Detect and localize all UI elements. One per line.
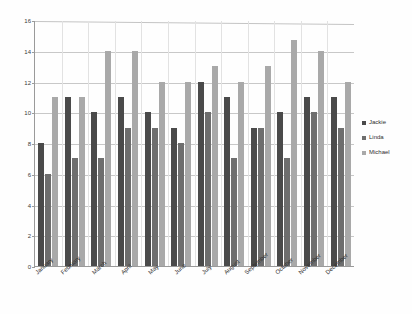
bar-linda-may <box>152 128 158 266</box>
bar-group-may <box>141 21 168 266</box>
x-axis-label-cell: July <box>194 268 221 314</box>
bar-linda-september <box>258 128 264 266</box>
legend-label-jackie: Jackie <box>369 119 386 126</box>
bar-group-july <box>194 21 221 266</box>
bar-group-november <box>301 21 328 266</box>
y-axis-tick-label: 16 <box>24 18 31 24</box>
bar-linda-october <box>284 158 290 266</box>
x-axis-label-cell: December <box>327 268 354 314</box>
y-axis-tick-label: 2 <box>28 233 31 239</box>
bar-linda-july <box>205 112 211 266</box>
bar-linda-december <box>338 128 344 266</box>
x-axis-label-cell: October <box>274 268 301 314</box>
x-axis-label-cell: September <box>247 268 274 314</box>
y-axis-tick-label: 14 <box>24 49 31 55</box>
bar-linda-april <box>125 128 131 266</box>
plot-area: 0246810121416 <box>34 21 354 267</box>
bar-jackie-april <box>118 97 124 266</box>
bar-jackie-september <box>251 128 257 266</box>
bar-michael-september <box>265 66 271 266</box>
bar-michael-october <box>291 40 297 266</box>
legend-swatch-michael-icon <box>362 151 366 155</box>
legend-item-jackie[interactable]: Jackie <box>362 119 410 126</box>
bar-michael-january <box>52 97 58 266</box>
bar-michael-august <box>238 82 244 267</box>
bar-jackie-october <box>277 112 283 266</box>
bar-chart: 0246810121416 JanuaryFebruaryMarchAprilM… <box>0 0 412 314</box>
x-axis-label-cell: August <box>221 268 248 314</box>
legend-item-linda[interactable]: Linda <box>362 134 410 141</box>
bar-jackie-july <box>198 82 204 267</box>
y-axis-tick-label: 10 <box>24 110 31 116</box>
x-axis-label-cell: June <box>167 268 194 314</box>
legend-label-linda: Linda <box>369 134 384 141</box>
bar-group-march <box>88 21 115 266</box>
bar-jackie-december <box>331 97 337 266</box>
x-axis-label-cell: May <box>141 268 168 314</box>
y-axis-tick-label: 0 <box>28 264 31 270</box>
bar-michael-july <box>212 66 218 266</box>
bar-jackie-august <box>224 97 230 266</box>
bars-layer <box>35 21 354 266</box>
bar-jackie-march <box>91 112 97 266</box>
bar-group-june <box>168 21 195 266</box>
legend-label-michael: Michael <box>369 149 390 156</box>
bar-linda-august <box>231 158 237 266</box>
chart-legend: JackieLindaMichael <box>362 119 410 164</box>
bar-group-february <box>62 21 89 266</box>
bar-jackie-november <box>304 97 310 266</box>
bar-group-october <box>274 21 301 266</box>
bar-linda-february <box>72 158 78 266</box>
bar-group-august <box>221 21 248 266</box>
y-axis-tick-label: 4 <box>28 203 31 209</box>
bar-group-april <box>115 21 142 266</box>
legend-swatch-linda-icon <box>362 136 366 140</box>
bar-michael-december <box>345 82 351 267</box>
bar-jackie-may <box>145 112 151 266</box>
x-axis-label-cell: November <box>301 268 328 314</box>
y-axis-tick-label: 12 <box>24 80 31 86</box>
bar-linda-june <box>178 143 184 266</box>
bar-michael-march <box>105 51 111 266</box>
bar-jackie-january <box>38 143 44 266</box>
legend-swatch-jackie-icon <box>362 121 366 125</box>
x-axis-label-cell: April <box>114 268 141 314</box>
bar-jackie-february <box>65 97 71 266</box>
legend-item-michael[interactable]: Michael <box>362 149 410 156</box>
bar-linda-january <box>45 174 51 266</box>
x-axis-label-cell: January <box>34 268 61 314</box>
bar-michael-april <box>132 51 138 266</box>
bar-group-december <box>327 21 354 266</box>
bar-michael-may <box>159 82 165 267</box>
bar-linda-march <box>98 158 104 266</box>
bar-group-september <box>248 21 275 266</box>
x-axis-label-cell: March <box>87 268 114 314</box>
bar-group-january <box>35 21 62 266</box>
bar-linda-november <box>311 112 317 266</box>
y-axis-tick-label: 8 <box>28 141 31 147</box>
bar-michael-june <box>185 82 191 267</box>
bar-jackie-june <box>171 128 177 266</box>
x-axis-labels: JanuaryFebruaryMarchAprilMayJuneJulyAugu… <box>34 268 354 314</box>
x-axis-label-cell: February <box>61 268 88 314</box>
bar-michael-november <box>318 51 324 266</box>
bar-michael-february <box>79 97 85 266</box>
y-axis-tick-label: 6 <box>28 172 31 178</box>
